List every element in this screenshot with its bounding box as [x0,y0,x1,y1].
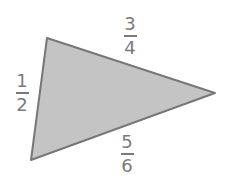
side-label-left: 1 2 [14,72,30,114]
numerator: 5 [121,133,132,151]
denominator: 6 [121,157,132,175]
numerator: 1 [16,72,27,90]
side-label-top: 3 4 [122,15,138,57]
numerator: 3 [124,15,135,33]
denominator: 2 [16,96,27,114]
denominator: 4 [124,39,135,57]
side-label-bottom: 5 6 [119,133,135,175]
